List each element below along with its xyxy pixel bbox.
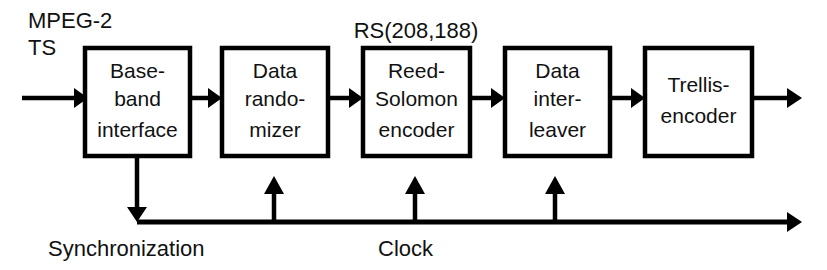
input-label-line1: MPEG-2 bbox=[28, 8, 112, 33]
block-reed-solomon-encoder: Reed- Solomon encoder bbox=[363, 48, 470, 156]
block-reed-solomon-encoder-line-3: encoder bbox=[379, 118, 455, 141]
block-baseband-interface-line-1: Base- bbox=[110, 59, 165, 82]
block-trellis-encoder-line-1: Trellis- bbox=[667, 73, 729, 96]
arrow-interleaver-to-trellis bbox=[610, 88, 645, 108]
rs-code-annotation: RS(208,188) bbox=[354, 18, 479, 43]
block-data-randomizer: Data rando- mizer bbox=[222, 48, 328, 156]
block-reed-solomon-encoder-line-1: Reed- bbox=[388, 59, 445, 82]
block-data-randomizer-line-3: mizer bbox=[249, 118, 300, 141]
block-trellis-encoder-line-2: encoder bbox=[661, 104, 737, 127]
input-label-line2: TS bbox=[28, 35, 56, 60]
clock-arrow-reed-solomon bbox=[405, 176, 425, 222]
block-data-interleaver-line-3: leaver bbox=[529, 118, 586, 141]
arrow-baseband-to-randomizer bbox=[190, 88, 222, 108]
block-data-randomizer-line-1: Data bbox=[253, 59, 298, 82]
block-baseband-interface-line-2: band bbox=[114, 87, 161, 110]
diagram-canvas: MPEG-2 TS RS(208,188) Base- band interfa… bbox=[0, 0, 827, 270]
input-signal-arrow bbox=[22, 88, 88, 108]
block-data-interleaver-line-2: inter- bbox=[534, 87, 582, 110]
clock-label: Clock bbox=[378, 236, 434, 261]
clock-arrow-randomizer bbox=[264, 176, 284, 222]
arrow-randomizer-to-reed-solomon bbox=[328, 88, 363, 108]
block-trellis-encoder: Trellis- encoder bbox=[645, 48, 752, 156]
block-baseband-interface-line-3: interface bbox=[97, 118, 178, 141]
block-data-randomizer-line-2: rando- bbox=[245, 87, 306, 110]
synchronization-arrow bbox=[127, 156, 147, 222]
arrow-reed-solomon-to-interleaver bbox=[470, 88, 505, 108]
block-data-interleaver: Data inter- leaver bbox=[505, 48, 610, 156]
output-signal-arrow bbox=[752, 88, 802, 108]
synchronization-label: Synchronization bbox=[48, 236, 205, 261]
block-baseband-interface: Base- band interface bbox=[85, 48, 190, 156]
block-diagram: MPEG-2 TS RS(208,188) Base- band interfa… bbox=[0, 0, 827, 270]
clock-arrow-interleaver bbox=[545, 176, 565, 222]
clock-bus-line bbox=[137, 212, 802, 232]
block-reed-solomon-encoder-line-2: Solomon bbox=[375, 87, 458, 110]
block-data-interleaver-line-1: Data bbox=[535, 59, 580, 82]
